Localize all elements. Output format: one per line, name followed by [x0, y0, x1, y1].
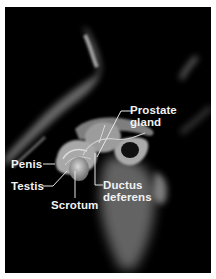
- label-ductus-line2: deferens: [103, 191, 152, 203]
- anatomy-figure: Prostate gland Penis Testis Scrotum Duct…: [5, 7, 211, 273]
- label-ductus-line1: Ductus: [103, 179, 152, 191]
- label-ductus-deferens: Ductus deferens: [103, 179, 152, 203]
- testis-leader-line: [43, 171, 67, 186]
- label-scrotum-text: Scrotum: [51, 199, 98, 211]
- label-prostate-line1: Prostate: [130, 104, 177, 116]
- label-scrotum: Scrotum: [51, 199, 98, 211]
- label-penis-text: Penis: [11, 158, 42, 170]
- label-prostate-line2: gland: [130, 116, 177, 128]
- anatomy-illustration: [5, 7, 211, 273]
- label-penis: Penis: [11, 158, 42, 170]
- label-prostate-gland: Prostate gland: [130, 104, 177, 128]
- label-testis: Testis: [11, 180, 44, 192]
- label-testis-text: Testis: [11, 180, 44, 192]
